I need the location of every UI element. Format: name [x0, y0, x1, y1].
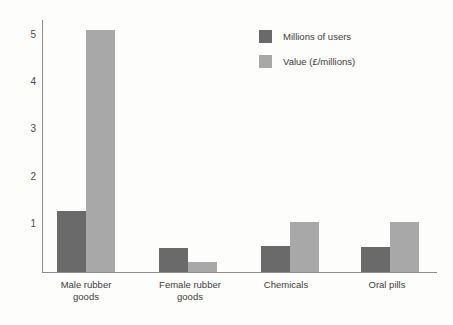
legend-item: Millions of users	[259, 24, 355, 49]
legend-swatch-icon	[259, 55, 272, 68]
x-axis-category-label: Female rubber goods	[133, 279, 247, 302]
bar	[361, 247, 390, 272]
x-axis-category-label: Chemicals	[236, 279, 336, 291]
legend-label: Millions of users	[283, 31, 351, 42]
bar	[188, 262, 217, 272]
legend-label: Value (£/millions)	[283, 56, 355, 67]
x-axis-category-label: Male rubber goods	[31, 279, 141, 302]
bar	[57, 211, 86, 272]
bar	[390, 222, 419, 272]
chart-legend: Millions of users Value (£/millions)	[259, 24, 355, 74]
bar-chart: 5 4 3 2 1 Male rubber goods Female rubbe…	[0, 0, 453, 325]
bar	[159, 248, 188, 272]
bar	[261, 246, 290, 272]
bars-layer	[0, 0, 453, 325]
bar	[290, 222, 319, 272]
legend-swatch-icon	[259, 30, 272, 43]
bar	[86, 30, 115, 272]
legend-item: Value (£/millions)	[259, 49, 355, 74]
x-axis-category-label: Oral pills	[337, 279, 437, 291]
